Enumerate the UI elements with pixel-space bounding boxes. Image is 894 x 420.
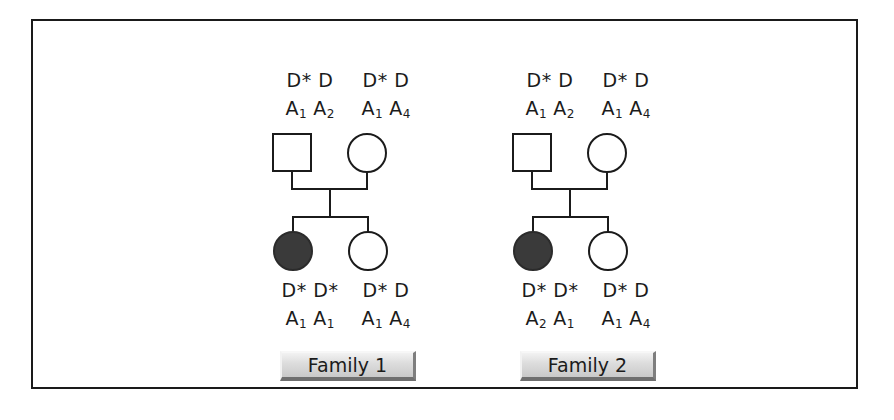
child-unaffected-marker-genotype: A1 A4 xyxy=(348,307,424,329)
child-affected-disease-genotype: D* D* xyxy=(272,279,348,301)
child-stub-left xyxy=(532,216,534,232)
allele-letter: A xyxy=(286,97,300,119)
allele-subscript: 1 xyxy=(567,317,575,331)
allele-subscript: 1 xyxy=(375,107,383,121)
mother-descent-stub xyxy=(366,173,368,189)
allele-subscript: 4 xyxy=(403,107,411,121)
allele-letter: A xyxy=(629,97,643,119)
sibship-line xyxy=(292,216,368,218)
child-affected-disease-genotype: D* D* xyxy=(512,279,588,301)
child-unaffected-disease-genotype: D* D xyxy=(588,279,664,301)
descent-line xyxy=(329,188,331,217)
mother-symbol-circle xyxy=(347,133,387,173)
pedigree-family-2: D* D D* D A1 A2 A1 A4 D* D* D* D A2 A1 xyxy=(512,21,752,420)
allele-subscript: 4 xyxy=(643,107,651,121)
allele-subscript: 1 xyxy=(327,317,335,331)
mother-disease-genotype: D* D xyxy=(588,69,664,91)
father-symbol-square xyxy=(272,133,312,172)
child-unaffected-disease-genotype: D* D xyxy=(348,279,424,301)
allele-letter: A xyxy=(313,97,327,119)
figure-frame: D* D D* D A1 A2 A1 A4 D* D* xyxy=(31,19,858,389)
allele-subscript: 4 xyxy=(403,317,411,331)
allele-letter: A xyxy=(362,307,376,329)
allele-letter: A xyxy=(526,307,540,329)
mother-descent-stub xyxy=(606,173,608,189)
allele-subscript: 2 xyxy=(567,107,575,121)
mother-symbol-circle xyxy=(587,133,627,173)
allele-subscript: 1 xyxy=(299,107,307,121)
allele-subscript: 1 xyxy=(615,107,623,121)
child-stub-right xyxy=(607,216,609,232)
mother-marker-genotype: A1 A4 xyxy=(348,97,424,119)
allele-letter: A xyxy=(362,97,376,119)
allele-subscript: 2 xyxy=(327,107,335,121)
father-descent-stub xyxy=(291,171,293,189)
allele-letter: A xyxy=(602,307,616,329)
father-symbol-square xyxy=(512,133,552,172)
allele-letter: A xyxy=(286,307,300,329)
allele-subscript: 1 xyxy=(299,317,307,331)
figure-canvas: D* D D* D A1 A2 A1 A4 D* D* xyxy=(0,0,894,420)
mother-disease-genotype: D* D xyxy=(348,69,424,91)
father-disease-genotype: D* D xyxy=(272,69,348,91)
sibship-line xyxy=(532,216,608,218)
child-symbol-affected-circle xyxy=(273,231,313,271)
allele-subscript: 1 xyxy=(615,317,623,331)
allele-letter: A xyxy=(629,307,643,329)
child-stub-right xyxy=(367,216,369,232)
child-affected-marker-genotype: A1 A1 xyxy=(272,307,348,329)
allele-subscript: 2 xyxy=(539,317,547,331)
child-symbol-unaffected-circle xyxy=(588,231,628,271)
allele-letter: A xyxy=(526,97,540,119)
father-descent-stub xyxy=(531,171,533,189)
allele-letter: A xyxy=(313,307,327,329)
allele-subscript: 1 xyxy=(539,107,547,121)
allele-letter: A xyxy=(553,307,567,329)
descent-line xyxy=(569,188,571,217)
allele-letter: A xyxy=(553,97,567,119)
pedigree-family-1: D* D D* D A1 A2 A1 A4 D* D* xyxy=(272,21,512,420)
child-symbol-unaffected-circle xyxy=(348,231,388,271)
child-symbol-affected-circle xyxy=(513,231,553,271)
family-1-label-button[interactable]: Family 1 xyxy=(280,351,416,381)
allele-letter: A xyxy=(602,97,616,119)
allele-subscript: 4 xyxy=(643,317,651,331)
family-1-label-text: Family 1 xyxy=(308,354,387,376)
father-marker-genotype: A1 A2 xyxy=(512,97,588,119)
father-marker-genotype: A1 A2 xyxy=(272,97,348,119)
allele-letter: A xyxy=(389,97,403,119)
family-2-label-text: Family 2 xyxy=(548,354,627,376)
child-unaffected-marker-genotype: A1 A4 xyxy=(588,307,664,329)
child-stub-left xyxy=(292,216,294,232)
allele-subscript: 1 xyxy=(375,317,383,331)
father-disease-genotype: D* D xyxy=(512,69,588,91)
mother-marker-genotype: A1 A4 xyxy=(588,97,664,119)
child-affected-marker-genotype: A2 A1 xyxy=(512,307,588,329)
allele-letter: A xyxy=(389,307,403,329)
family-2-label-button[interactable]: Family 2 xyxy=(520,351,656,381)
